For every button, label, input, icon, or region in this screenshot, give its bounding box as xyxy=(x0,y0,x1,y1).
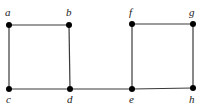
edge-e-h xyxy=(132,88,193,89)
node-a xyxy=(6,22,12,28)
label-f: f xyxy=(129,6,134,18)
node-h xyxy=(190,85,196,91)
label-g: g xyxy=(189,6,195,18)
label-c: c xyxy=(6,93,11,105)
label-h: h xyxy=(189,93,195,105)
node-e xyxy=(129,86,135,92)
node-f xyxy=(129,21,135,27)
label-d: d xyxy=(67,93,73,105)
label-a: a xyxy=(5,6,11,18)
node-c xyxy=(6,86,12,92)
node-g xyxy=(190,21,196,27)
edge-b-d xyxy=(69,25,70,89)
edges xyxy=(9,24,193,89)
node-b xyxy=(66,22,72,28)
label-b: b xyxy=(66,6,72,18)
node-d xyxy=(67,86,73,92)
label-e: e xyxy=(129,93,134,105)
graph-diagram: a b c d e f g h xyxy=(0,0,197,106)
labels: a b c d e f g h xyxy=(5,6,195,105)
nodes xyxy=(6,21,196,92)
